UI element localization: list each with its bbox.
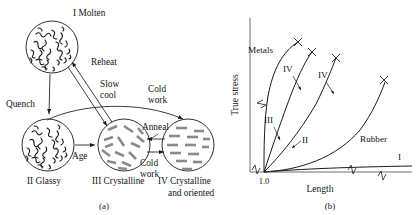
state-circle-crystalline-oriented xyxy=(162,119,214,171)
transition-label-age: Age xyxy=(72,151,88,161)
figure-root: I Molten xyxy=(0,0,418,215)
y-axis-break xyxy=(257,100,266,108)
curve-label-ii: II xyxy=(302,135,308,145)
transition-label-quench: Quench xyxy=(6,99,35,109)
transition-label-slow-cool-line1: Slow xyxy=(100,79,119,89)
curve-label-metals: Metals xyxy=(248,45,273,55)
fracture-marker-iv-b xyxy=(332,54,340,62)
state-circle-glassy xyxy=(22,119,74,171)
transition-cold-work-top xyxy=(47,106,183,120)
curve-label-rubber: Rubber xyxy=(360,134,387,144)
panel-a-canvas: I Molten xyxy=(0,0,220,215)
x-axis-break-mid xyxy=(348,165,356,174)
curve-rubber xyxy=(264,76,388,172)
state-label-oriented-line1: IV Crystalline xyxy=(158,176,211,186)
state-label-glassy: II Glassy xyxy=(27,176,61,186)
fracture-marker-rubber xyxy=(380,76,388,84)
panel-b-stress-length-chart: True stress Length 1.0 xyxy=(220,0,418,215)
panel-a-caption: (a) xyxy=(99,201,109,211)
x-axis-label: Length xyxy=(306,183,333,194)
transition-label-anneal: Anneal xyxy=(142,122,169,132)
curve-label-iv-b: IV xyxy=(318,70,328,80)
transition-label-cold-work-top-line2: work xyxy=(148,95,167,105)
transition-label-cold-work-top-line1: Cold xyxy=(148,84,166,94)
state-label-molten: I Molten xyxy=(73,8,106,18)
state-label-crystalline: III Crystalline xyxy=(92,176,144,186)
transition-label-reheat: Reheat xyxy=(91,57,117,67)
state-circle-molten xyxy=(26,21,78,73)
y-axis-label: True stress xyxy=(229,74,240,116)
state-label-oriented-line2: and oriented xyxy=(168,188,215,198)
fracture-marker-iv-a xyxy=(308,48,316,56)
curve-label-i: I xyxy=(398,152,401,162)
transition-label-cold-work-mid-line2: work xyxy=(140,169,159,179)
panel-b-canvas: True stress Length 1.0 xyxy=(220,0,418,215)
x-axis-break-left xyxy=(252,165,260,174)
transition-label-slow-cool-line2: cool xyxy=(100,90,116,100)
x-tick-label-1-0: 1.0 xyxy=(259,176,270,186)
panel-b-caption: (b) xyxy=(325,201,336,211)
transition-anneal xyxy=(147,134,165,139)
panel-a-state-diagram: I Molten xyxy=(0,0,220,215)
curve-label-iv-a: IV xyxy=(283,64,293,74)
curve-label-iii: III xyxy=(264,115,273,125)
fracture-marker-metals xyxy=(294,38,302,46)
transition-quench xyxy=(49,74,50,114)
transition-label-cold-work-mid-line1: Cold xyxy=(140,158,158,168)
